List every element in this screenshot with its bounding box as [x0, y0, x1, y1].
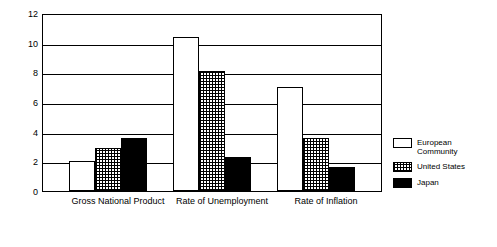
legend-swatch-icon: [393, 138, 412, 148]
y-tick-label: 6: [2, 99, 38, 108]
legend: European Community United States Japan: [393, 138, 489, 194]
bar-chart: 0 2 4 6 8 10 12: [0, 0, 497, 247]
y-tick-label: 4: [2, 129, 38, 138]
bar-us-gnp: [95, 148, 121, 191]
bar-jp-gnp: [121, 138, 147, 191]
x-tick-label-rate-of-inflation: Rate of Inflation: [271, 196, 381, 207]
legend-label: United States: [417, 162, 465, 171]
bar-ec-gnp: [69, 161, 95, 191]
y-tick-label: 8: [2, 69, 38, 78]
y-axis: 0 2 4 6 8 10 12: [0, 14, 38, 192]
bar-jp-inflation: [329, 167, 355, 191]
legend-item-japan: Japan: [393, 178, 489, 188]
legend-item-united-states: United States: [393, 162, 489, 172]
y-tick-label: 12: [2, 10, 38, 19]
bar-ec-inflation: [277, 87, 303, 191]
x-tick-label-rate-of-unemployment: Rate of Unemployment: [167, 196, 277, 207]
y-tick-label: 2: [2, 158, 38, 167]
y-tick-label: 10: [2, 40, 38, 49]
legend-swatch-icon: [393, 178, 412, 188]
legend-label: European Community: [417, 138, 457, 156]
y-tick-label: 0: [2, 188, 38, 197]
x-tick-label-gross-national-product: Gross National Product: [63, 196, 173, 207]
bar-us-inflation: [303, 138, 329, 191]
bar-ec-unemployment: [173, 37, 199, 191]
plot-area: [42, 14, 382, 192]
bar-group-gross-national-product: [69, 15, 167, 191]
bar-group-rate-of-unemployment: [173, 15, 271, 191]
legend-swatch-icon: [393, 162, 412, 172]
bar-us-unemployment: [199, 71, 225, 191]
bar-jp-unemployment: [225, 157, 251, 191]
legend-label: Japan: [417, 178, 439, 187]
legend-item-european-community: European Community: [393, 138, 489, 156]
bar-group-rate-of-inflation: [277, 15, 375, 191]
